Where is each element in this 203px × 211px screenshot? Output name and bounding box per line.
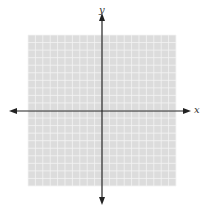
coordinate-plane	[0, 0, 203, 211]
x-axis-label: x	[194, 104, 200, 115]
y-axis-label: y	[99, 4, 105, 15]
x-axis-left-arrow-icon	[9, 108, 17, 114]
x-axis-right-arrow-icon	[183, 108, 191, 114]
y-axis-bottom-arrow-icon	[99, 197, 105, 205]
